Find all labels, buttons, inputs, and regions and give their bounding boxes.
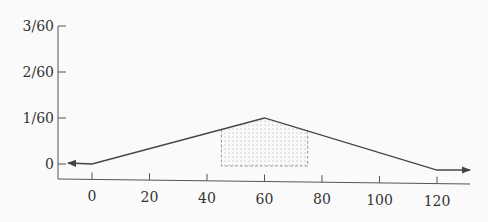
y-tick-label: 2/60 (23, 64, 54, 80)
x-tick-label: 120 (424, 193, 451, 209)
x-tick-label: 40 (198, 190, 216, 206)
y-tick-label: 3/60 (23, 18, 54, 34)
triangular-density-chart: 01/602/603/60020406080100120 (0, 0, 488, 222)
tick-labels: 01/602/603/60020406080100120 (23, 18, 451, 209)
x-tick-label: 60 (256, 191, 274, 207)
shaded-fill (221, 118, 307, 166)
shaded-region (221, 118, 307, 166)
x-tick-label: 20 (141, 189, 159, 205)
x-tick-label: 80 (313, 191, 331, 207)
y-tick-label: 0 (45, 156, 54, 172)
x-tick-label: 100 (366, 192, 393, 208)
y-tick-label: 1/60 (23, 110, 54, 126)
x-tick-label: 0 (88, 188, 97, 204)
